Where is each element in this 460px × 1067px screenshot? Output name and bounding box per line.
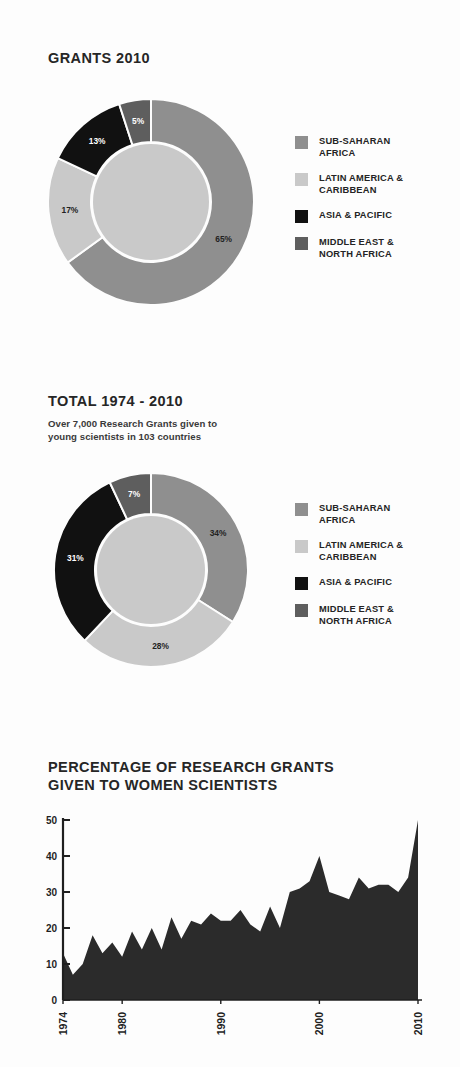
legend-item-middle-east-north-africa[interactable]: MIDDLE EAST & NORTH AFRICA [295,236,403,260]
total-1974-2010-title: TOTAL 1974 - 2010 [48,392,183,410]
y-tick-label: 10 [46,959,58,970]
legend-item-asia-pacific[interactable]: ASIA & PACIFIC [295,576,403,590]
total-1974-2010-donut: 34%28%31%7% [36,458,266,688]
legend-label-latin-america-caribbean: LATIN AMERICA & CARIBBEAN [319,539,403,563]
y-tick-label: 0 [51,995,57,1006]
donut-inner-disc [93,144,209,260]
donut-slice-label: 31% [67,553,84,563]
total-1974-2010-legend: SUB-SAHARAN AFRICA LATIN AMERICA & CARIB… [295,502,403,627]
y-tick-label: 40 [46,851,58,862]
y-tick-label: 50 [46,815,58,826]
grants-2010-title: GRANTS 2010 [48,49,150,67]
legend-swatch-middle-east-north-africa [295,237,308,250]
legend-swatch-sub-saharan-africa [295,136,308,149]
women-scientists-title: PERCENTAGE OF RESEARCH GRANTS GIVEN TO W… [48,758,334,794]
donut-slice-label: 7% [128,489,141,499]
legend-swatch-sub-saharan-africa [295,503,308,516]
y-tick-label: 20 [46,923,58,934]
legend-label-middle-east-north-africa: MIDDLE EAST & NORTH AFRICA [319,603,394,627]
legend-label-sub-saharan-africa: SUB-SAHARAN AFRICA [319,135,390,159]
legend-swatch-asia-pacific [295,577,308,590]
infographic-page: GRANTS 2010 65%17%13%5% SUB-SAHARAN AFRI… [0,0,460,1067]
legend-label-asia-pacific: ASIA & PACIFIC [319,209,392,221]
legend-swatch-middle-east-north-africa [295,604,308,617]
x-tick-label: 2010 [412,1012,424,1036]
legend-item-latin-america-caribbean[interactable]: LATIN AMERICA & CARIBBEAN [295,172,403,196]
grants-2010-donut-svg: 65%17%13%5% [36,85,266,325]
legend-label-asia-pacific: ASIA & PACIFIC [319,576,392,588]
total-1974-2010-donut-svg: 34%28%31%7% [36,458,266,688]
legend-item-sub-saharan-africa[interactable]: SUB-SAHARAN AFRICA [295,135,403,159]
donut-slice-label: 13% [89,136,106,146]
total-1974-2010-subtitle: Over 7,000 Research Grants given to youn… [48,418,217,444]
legend-item-middle-east-north-africa[interactable]: MIDDLE EAST & NORTH AFRICA [295,603,403,627]
donut-slice-label: 34% [210,528,227,538]
donut-slice-label: 28% [152,641,169,651]
y-tick-label: 30 [46,887,58,898]
legend-item-asia-pacific[interactable]: ASIA & PACIFIC [295,209,403,223]
legend-swatch-asia-pacific [295,210,308,223]
legend-label-latin-america-caribbean: LATIN AMERICA & CARIBBEAN [319,172,403,196]
section-grants-2010: GRANTS 2010 65%17%13%5% SUB-SAHARAN AFRI… [0,40,460,360]
x-tick-label: 1980 [116,1012,128,1036]
donut-slice-label: 17% [61,205,78,215]
area-series-women-percentage [63,820,418,1000]
section-women-scientists: PERCENTAGE OF RESEARCH GRANTS GIVEN TO W… [0,752,460,1067]
legend-label-sub-saharan-africa: SUB-SAHARAN AFRICA [319,502,390,526]
grants-2010-donut: 65%17%13%5% [36,85,266,325]
x-tick-label: 1990 [215,1012,227,1036]
legend-label-middle-east-north-africa: MIDDLE EAST & NORTH AFRICA [319,236,394,260]
grants-2010-legend: SUB-SAHARAN AFRICA LATIN AMERICA & CARIB… [295,135,403,260]
donut-inner-disc [97,516,205,624]
legend-swatch-latin-america-caribbean [295,540,308,553]
legend-swatch-latin-america-caribbean [295,173,308,186]
women-scientists-area-chart: 0102030405019741980199020002010 [18,810,438,1060]
donut-slice-label: 65% [215,234,232,244]
x-tick-label: 2000 [313,1012,325,1036]
donut-slice-label: 5% [132,116,145,126]
section-total-1974-2010: TOTAL 1974 - 2010 Over 7,000 Research Gr… [0,380,460,700]
legend-item-sub-saharan-africa[interactable]: SUB-SAHARAN AFRICA [295,502,403,526]
legend-item-latin-america-caribbean[interactable]: LATIN AMERICA & CARIBBEAN [295,539,403,563]
x-tick-label: 1974 [57,1012,69,1036]
